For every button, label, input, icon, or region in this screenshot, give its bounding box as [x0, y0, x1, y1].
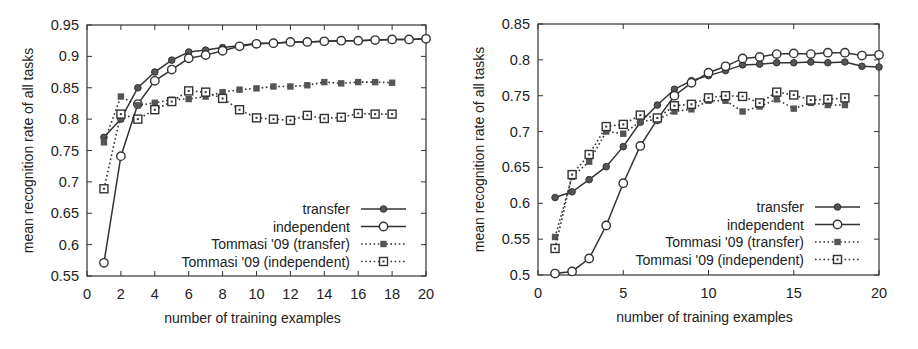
filled-circle-marker: [620, 143, 627, 150]
filled-circle-marker: [168, 57, 175, 64]
chart-right: 051015200.50.550.60.650.70.750.80.85numb…: [459, 0, 918, 349]
x-tick-label: 20: [418, 286, 434, 302]
series-tommasi-09-independent: [100, 87, 396, 193]
open-circle-marker: [841, 48, 849, 56]
filled-circle-marker: [654, 102, 661, 109]
filled-square-marker: [304, 82, 310, 88]
open-circle-marker: [721, 62, 729, 70]
x-tick-label: 4: [151, 286, 159, 302]
filled-square-marker: [135, 102, 141, 108]
open-circle-marker: [185, 54, 193, 62]
open-circle-marker: [100, 259, 108, 267]
legend-label: transfer: [303, 201, 351, 217]
open-circle-marker: [117, 152, 125, 160]
open-circle-marker: [738, 54, 746, 62]
series-line: [104, 39, 426, 138]
legend-label: independent: [727, 217, 804, 233]
y-tick-label: 0.7: [510, 124, 530, 140]
x-tick-label: 0: [534, 285, 542, 301]
filled-square-marker: [380, 241, 386, 247]
open-circle-marker: [151, 77, 159, 85]
filled-square-marker: [791, 105, 797, 111]
open-circle-marker: [218, 47, 226, 55]
open-circle-marker: [235, 42, 243, 50]
filled-square-marker: [620, 131, 626, 137]
filled-circle-marker: [380, 206, 387, 213]
x-axis-title: number of training examples: [616, 309, 793, 325]
chart-right-plot: 051015200.50.550.60.650.70.750.80.85numb…: [459, 0, 918, 349]
filled-square-marker: [389, 80, 395, 86]
legend-label: Tommasi '09 (transfer): [211, 236, 350, 252]
x-tick-label: 10: [700, 285, 716, 301]
filled-square-marker: [372, 79, 378, 85]
filled-square-marker: [321, 79, 327, 85]
open-circle-marker: [687, 79, 695, 87]
open-circle-marker: [773, 50, 781, 58]
filled-square-marker: [270, 83, 276, 89]
open-circle-marker: [858, 51, 866, 59]
filled-square-marker: [739, 108, 745, 114]
filled-square-marker: [586, 158, 592, 164]
open-circle-marker: [337, 36, 345, 44]
filled-square-marker: [842, 102, 848, 108]
filled-square-marker: [774, 96, 780, 102]
open-circle-marker: [636, 142, 644, 150]
y-tick-label: 0.55: [502, 231, 530, 247]
x-tick-label: 15: [786, 285, 802, 301]
legend: transferindependentTommasi '09 (transfer…: [636, 199, 860, 268]
open-circle-marker: [168, 65, 176, 73]
filled-circle-marker: [569, 189, 576, 196]
filled-circle-marker: [152, 69, 159, 76]
open-circle-marker: [670, 92, 678, 100]
x-tick-label: 20: [871, 285, 887, 301]
filled-circle-marker: [790, 59, 797, 66]
open-circle-marker: [422, 35, 430, 43]
open-circle-marker: [807, 50, 815, 58]
open-circle-marker: [704, 69, 712, 77]
x-tick-label: 18: [384, 286, 400, 302]
filled-circle-marker: [834, 204, 841, 211]
y-tick-label: 0.95: [51, 17, 79, 33]
open-circle-marker: [755, 53, 763, 61]
open-circle-marker: [619, 179, 627, 187]
y-tick-label: 0.9: [59, 48, 79, 64]
filled-square-marker: [236, 86, 242, 92]
filled-circle-marker: [552, 194, 559, 201]
y-tick-label: 0.85: [502, 16, 530, 32]
filled-square-marker: [355, 79, 361, 85]
filled-square-marker: [186, 96, 192, 102]
y-tick-label: 0.5: [510, 267, 530, 283]
open-circle-marker: [833, 220, 841, 228]
filled-circle-marker: [603, 163, 610, 170]
filled-circle-marker: [876, 64, 883, 71]
open-circle-marker: [252, 40, 260, 48]
open-circle-marker: [379, 222, 387, 230]
chart-left: 024681012141618200.550.60.650.70.750.80.…: [0, 0, 459, 349]
legend-label: independent: [273, 219, 350, 235]
x-tick-label: 12: [282, 286, 298, 302]
filled-circle-marker: [773, 59, 780, 66]
y-tick-label: 0.8: [59, 111, 79, 127]
legend-label: Tommasi '09 (independent): [636, 252, 804, 268]
y-tick-label: 0.6: [510, 195, 530, 211]
x-tick-label: 0: [83, 286, 91, 302]
open-circle-marker: [790, 49, 798, 57]
y-tick-label: 0.85: [51, 80, 79, 96]
filled-square-marker: [287, 83, 293, 89]
y-axis-title: mean recognition rate of all tasks: [20, 48, 36, 253]
open-circle-marker: [269, 39, 277, 47]
x-axis-title: number of training examples: [164, 310, 341, 326]
filled-circle-marker: [808, 59, 815, 66]
legend-label: transfer: [757, 199, 805, 215]
open-circle-marker: [286, 38, 294, 46]
series-line: [104, 91, 392, 189]
open-circle-marker: [354, 36, 362, 44]
y-tick-label: 0.65: [502, 159, 530, 175]
y-tick-label: 0.7: [59, 174, 79, 190]
x-tick-label: 14: [316, 286, 332, 302]
filled-circle-marker: [586, 176, 593, 183]
y-tick-label: 0.6: [59, 237, 79, 253]
series-tommasi-09-transfer: [101, 79, 396, 146]
open-circle-marker: [371, 36, 379, 44]
x-tick-label: 5: [619, 285, 627, 301]
